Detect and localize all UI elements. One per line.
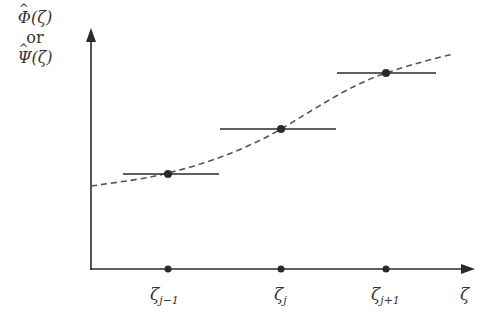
node-dot-j-minus-1 xyxy=(165,266,172,273)
cell-segments xyxy=(123,73,436,174)
diagram-canvas xyxy=(0,0,496,316)
tick-sub: j xyxy=(283,294,286,307)
tick-base: ζ xyxy=(274,284,283,304)
y-axis-label: Φ(ζ) or Ψ(ζ) xyxy=(4,8,66,68)
tick-label-j-plus-1: ζj+1 xyxy=(371,286,400,306)
node-dot-j-plus-1 xyxy=(383,266,390,273)
x-axis-arrow-icon xyxy=(461,264,475,274)
dashed-curve xyxy=(91,54,454,186)
value-dot-j xyxy=(277,125,285,133)
psi-arg: (ζ) xyxy=(31,48,52,67)
y-axis xyxy=(86,28,96,270)
node-dot-j xyxy=(278,266,285,273)
value-dot-j-plus-1 xyxy=(382,69,390,77)
tick-base: ζ xyxy=(150,284,159,304)
y-axis-arrow-icon xyxy=(86,28,96,42)
tick-sub: j−1 xyxy=(159,294,179,307)
y-label-phi: Φ(ζ) xyxy=(4,8,66,28)
y-label-or: or xyxy=(4,28,66,48)
x-axis-label: ζ xyxy=(460,286,469,303)
value-dot-j-minus-1 xyxy=(164,170,172,178)
tick-label-j: ζj xyxy=(274,286,287,306)
tick-base: ζ xyxy=(371,284,380,304)
phi-arg: (ζ) xyxy=(31,8,52,27)
phi-hat-symbol: Φ xyxy=(18,8,31,28)
y-label-psi: Ψ(ζ) xyxy=(4,48,66,68)
tick-sub: j+1 xyxy=(380,294,400,307)
tick-label-j-minus-1: ζj−1 xyxy=(150,286,179,306)
psi-hat-symbol: Ψ xyxy=(17,48,31,68)
